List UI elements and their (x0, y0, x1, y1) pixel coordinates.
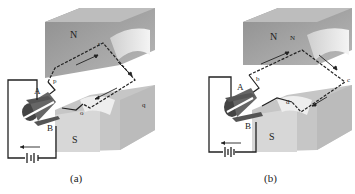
south-magnet (55, 85, 155, 152)
corner-label-4: o (80, 109, 84, 117)
caption-b: (b) (264, 172, 277, 184)
corner-label-4: d (286, 98, 290, 106)
motor-diagram-a: N S A B p r q o (0, 0, 178, 194)
north-magnet (243, 8, 352, 65)
corner-label-1: b (256, 75, 260, 83)
caption-a: (a) (70, 172, 82, 184)
north-label: N (70, 29, 77, 40)
corner-label-3: q (142, 101, 146, 109)
motor-diagram-b: N S A B b N c d (177, 0, 355, 194)
south-label: S (72, 134, 78, 145)
north-label: N (270, 31, 277, 42)
south-label: S (269, 131, 275, 142)
brush-a-label: A (237, 82, 244, 92)
commutator (22, 92, 60, 126)
corner-label-1: p (53, 77, 57, 85)
panel-b: N S A B b N c d (b) (177, 0, 355, 194)
brush-b-label: B (245, 121, 251, 131)
brush-b-label: B (47, 123, 53, 133)
corner-label-2: N (290, 34, 295, 42)
panel-a: N S A B p r q o (a) (0, 0, 178, 194)
corner-label-3: c (347, 76, 350, 84)
brush-a-label: A (34, 86, 41, 96)
south-magnet (252, 85, 352, 152)
commutator (224, 88, 263, 122)
